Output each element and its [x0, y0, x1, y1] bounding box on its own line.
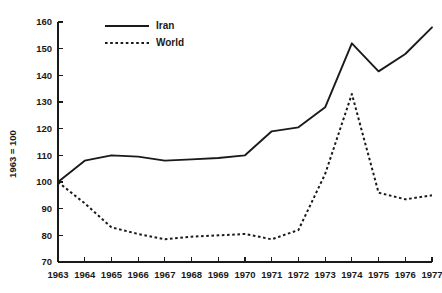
series-line-iran	[58, 27, 432, 182]
chart-plot-area: 7080901001101201301401501601963196419651…	[0, 0, 442, 293]
y-axis-title: 1963 = 100	[7, 130, 18, 178]
x-axis-tick-label: 1976	[395, 269, 416, 280]
x-axis-tick-label: 1972	[288, 269, 309, 280]
x-axis-tick-label: 1975	[368, 269, 390, 280]
y-axis-tick-label: 150	[36, 43, 52, 54]
x-axis-tick-label: 1965	[101, 269, 123, 280]
x-axis-tick-label: 1964	[74, 269, 96, 280]
legend-label-world: World	[156, 37, 184, 48]
x-axis-tick-label: 1969	[208, 269, 229, 280]
series-line-world	[58, 94, 432, 239]
x-axis-tick-label: 1971	[261, 269, 283, 280]
x-axis-tick-label: 1968	[181, 269, 202, 280]
y-axis-tick-label: 140	[36, 70, 52, 81]
x-axis-tick-label: 1974	[341, 269, 363, 280]
line-chart: 7080901001101201301401501601963196419651…	[0, 0, 442, 293]
y-axis-tick-label: 90	[41, 203, 52, 214]
x-axis-tick-label: 1973	[315, 269, 336, 280]
x-axis-tick-label: 1967	[154, 269, 175, 280]
y-axis-tick-label: 110	[37, 150, 52, 161]
y-axis-tick-label: 120	[36, 123, 52, 134]
x-axis-tick-label: 1966	[128, 269, 149, 280]
y-axis-tick-label: 160	[36, 16, 52, 27]
y-axis-tick-label: 70	[41, 256, 52, 267]
y-axis-tick-label: 100	[36, 176, 52, 187]
x-axis-tick-label: 1963	[47, 269, 68, 280]
legend-label-iran: Iran	[156, 20, 174, 31]
x-axis-tick-label: 1970	[234, 269, 255, 280]
x-axis-tick-label: 1977	[421, 269, 442, 280]
y-axis-tick-label: 130	[36, 96, 52, 107]
y-axis-tick-label: 80	[41, 230, 52, 241]
